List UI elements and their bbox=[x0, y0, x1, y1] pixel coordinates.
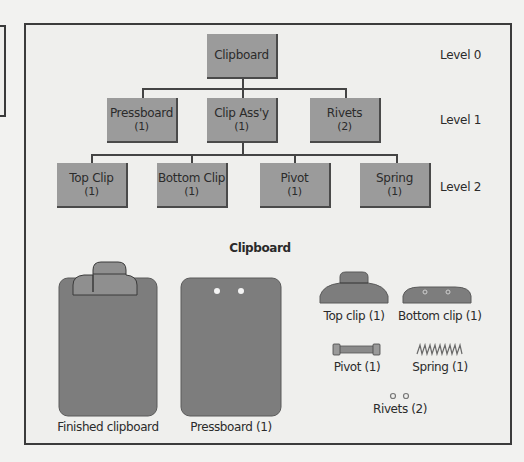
rivets-illustration bbox=[0, 0, 524, 462]
caption-rivets: Rivets (2) bbox=[368, 402, 432, 416]
